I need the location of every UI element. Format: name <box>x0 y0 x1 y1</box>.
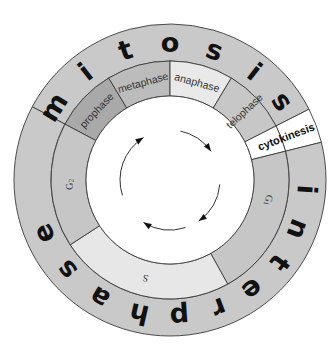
interphase-letter-5: p <box>169 301 190 333</box>
cell-cycle-diagram: mitosis interphase prophase metaphase an… <box>0 0 336 354</box>
mitosis-letter-3: o <box>161 27 180 58</box>
